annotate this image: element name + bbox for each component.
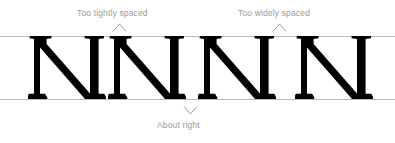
letter-n-2: [108, 36, 186, 99]
glyph-n-4: [295, 36, 373, 99]
letter-n-1: [28, 36, 106, 99]
annotation-label-about-right: About right: [157, 120, 200, 130]
letter-n-3: [198, 36, 276, 99]
figure-canvas: Too tightly spaced Too widely spaced Abo…: [0, 0, 395, 143]
chevron-down-icon-about-right: [183, 106, 198, 115]
glyph-n-3: [198, 36, 276, 99]
annotation-label-too-tightly-spaced: Too tightly spaced: [77, 8, 148, 18]
glyph-n-1: [28, 36, 106, 99]
chevron-up-icon-wide: [272, 23, 287, 32]
annotation-label-too-widely-spaced: Too widely spaced: [238, 8, 310, 18]
chevron-up-icon-tight: [112, 23, 127, 32]
baseline-guide-line: [0, 99, 395, 100]
letter-n-4: [295, 36, 373, 99]
glyph-n-2: [108, 36, 186, 99]
